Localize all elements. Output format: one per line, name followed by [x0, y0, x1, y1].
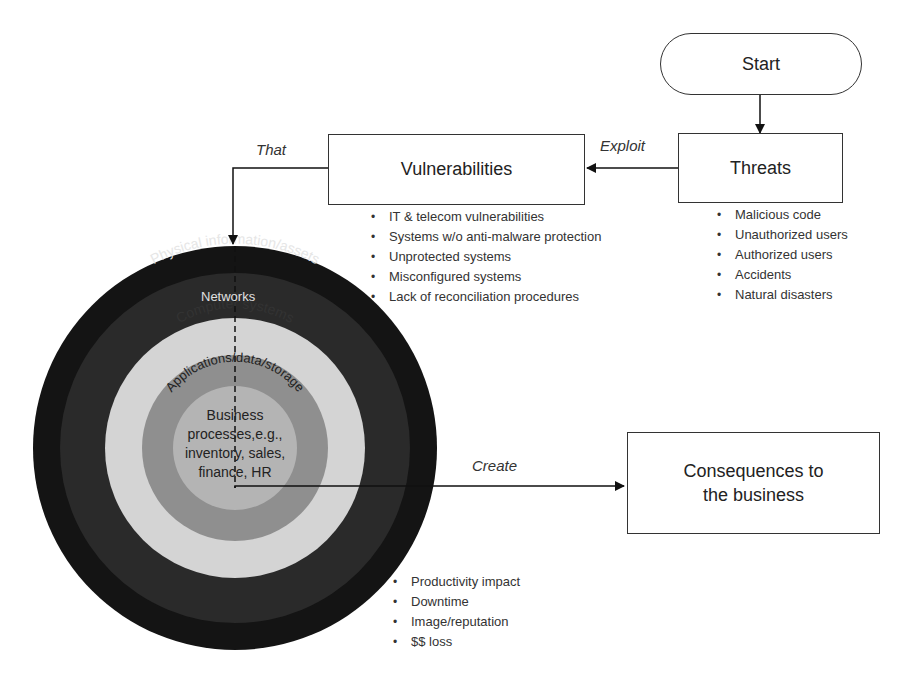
list-item: Productivity impact: [389, 572, 520, 592]
edge-label-that: That: [256, 141, 286, 158]
list-item: Misconfigured systems: [367, 267, 601, 287]
threats-label: Threats: [730, 158, 791, 179]
edge-label-create: Create: [472, 457, 517, 474]
list-item: $$ loss: [389, 632, 520, 652]
list-item: Unauthorized users: [713, 225, 848, 245]
list-item: IT & telecom vulnerabilities: [367, 207, 601, 227]
vulnerabilities-list: IT & telecom vulnerabilities Systems w/o…: [367, 207, 601, 307]
vulnerabilities-node: Vulnerabilities: [328, 134, 585, 205]
consequences-list: Productivity impact Downtime Image/reput…: [389, 572, 520, 652]
consequences-label-line1: Consequences to: [683, 459, 823, 483]
center-line-4: finance, HR: [170, 463, 300, 482]
list-item: Systems w/o anti-malware protection: [367, 227, 601, 247]
list-item: Accidents: [713, 265, 848, 285]
list-item: Unprotected systems: [367, 247, 601, 267]
threats-list: Malicious code Unauthorized users Author…: [713, 205, 848, 305]
edge-label-exploit: Exploit: [600, 137, 645, 154]
list-item: Authorized users: [713, 245, 848, 265]
consequences-label-line2: the business: [703, 483, 804, 507]
start-node: Start: [660, 33, 862, 95]
vulnerabilities-label: Vulnerabilities: [401, 159, 512, 180]
list-item: Downtime: [389, 592, 520, 612]
business-processes-text: Business processes,e.g., inventory, sale…: [170, 406, 300, 482]
threats-node: Threats: [678, 133, 843, 203]
list-item: Natural disasters: [713, 285, 848, 305]
ring-label-networks: Networks: [201, 289, 255, 304]
list-item: Malicious code: [713, 205, 848, 225]
consequences-node: Consequences to the business: [627, 432, 880, 534]
start-label: Start: [742, 54, 780, 75]
center-line-2: processes,e.g.,: [170, 425, 300, 444]
list-item: Image/reputation: [389, 612, 520, 632]
center-line-3: inventory, sales,: [170, 444, 300, 463]
center-line-1: Business: [170, 406, 300, 425]
list-item: Lack of reconciliation procedures: [367, 287, 601, 307]
